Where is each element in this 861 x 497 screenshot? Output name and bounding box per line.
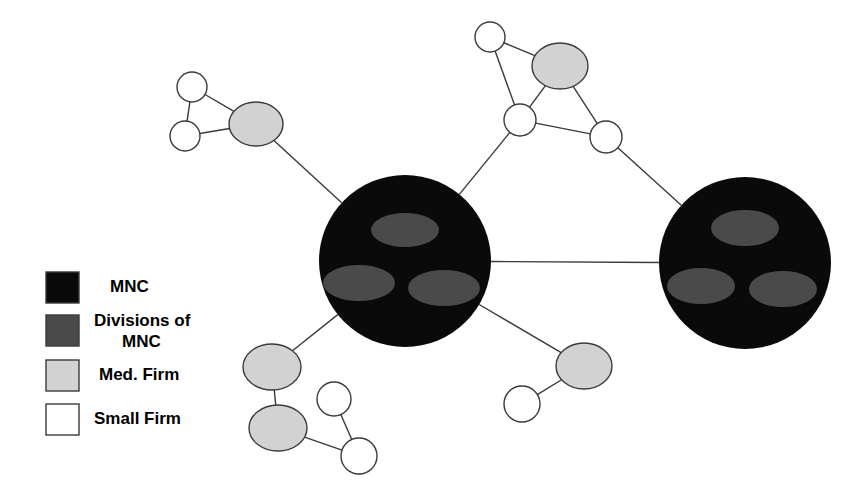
network-node-med-topmid[interactable] bbox=[532, 43, 588, 89]
network-node-mnc-right[interactable] bbox=[659, 177, 831, 349]
legend-swatch-divisions bbox=[46, 315, 79, 346]
network-node-small-topmid-mid[interactable] bbox=[504, 104, 536, 136]
network-edge bbox=[459, 132, 510, 194]
node-layer bbox=[170, 22, 831, 474]
network-node-small-upperleft-bottom[interactable] bbox=[170, 121, 200, 151]
network-edge bbox=[274, 140, 342, 202]
network-diagram: MNCDivisions ofMNCMed. FirmSmall Firm bbox=[0, 0, 861, 497]
network-node-div-right-bottomleft[interactable] bbox=[667, 268, 735, 304]
network-node-small-topmid-right[interactable] bbox=[590, 121, 622, 153]
network-node-div-right-top[interactable] bbox=[711, 210, 779, 246]
network-canvas: MNCDivisions ofMNCMed. FirmSmall Firm bbox=[0, 0, 861, 497]
network-node-div-left-top[interactable] bbox=[371, 213, 439, 247]
network-edge bbox=[292, 315, 337, 351]
network-node-div-left-bottomright[interactable] bbox=[408, 270, 480, 306]
legend-swatch-small bbox=[46, 404, 79, 435]
network-edge bbox=[305, 437, 342, 450]
network-node-med-bottomleft-lower[interactable] bbox=[249, 405, 307, 451]
network-edge bbox=[479, 305, 561, 353]
legend-label-divisions-line1: Divisions of bbox=[94, 311, 191, 330]
network-node-div-right-bottomright[interactable] bbox=[749, 271, 817, 307]
legend-swatch-mnc bbox=[46, 272, 79, 303]
network-edge bbox=[200, 128, 230, 133]
network-edge bbox=[530, 86, 546, 107]
network-node-div-left-bottomleft[interactable] bbox=[323, 265, 395, 301]
network-node-small-bottomleft-lower[interactable] bbox=[341, 438, 377, 474]
network-node-small-topmid-left[interactable] bbox=[475, 22, 505, 52]
network-edge bbox=[205, 95, 234, 112]
legend-label-divisions-line2: MNC bbox=[122, 332, 161, 351]
network-edge bbox=[504, 43, 535, 56]
network-node-med-bottomleft-upper[interactable] bbox=[243, 344, 301, 390]
network-edge bbox=[573, 86, 597, 123]
network-node-med-bottomright[interactable] bbox=[556, 343, 612, 389]
network-edge bbox=[618, 148, 681, 205]
network-edge bbox=[491, 262, 659, 263]
network-edge bbox=[536, 123, 591, 134]
network-edge bbox=[274, 390, 275, 405]
legend: MNCDivisions ofMNCMed. FirmSmall Firm bbox=[46, 272, 191, 435]
network-edge bbox=[495, 51, 514, 105]
network-node-small-bottomright[interactable] bbox=[504, 386, 540, 422]
network-node-small-bottomleft-upper[interactable] bbox=[317, 382, 351, 416]
network-edge bbox=[187, 102, 190, 121]
network-edge bbox=[341, 415, 352, 440]
legend-swatch-medium bbox=[46, 360, 79, 391]
network-edge bbox=[537, 380, 561, 395]
network-node-small-upperleft-top[interactable] bbox=[177, 72, 207, 102]
legend-label-small: Small Firm bbox=[94, 409, 181, 428]
legend-label-mnc: MNC bbox=[110, 277, 149, 296]
network-node-mnc-left[interactable] bbox=[319, 175, 491, 347]
legend-label-medium: Med. Firm bbox=[99, 365, 179, 384]
network-node-med-upperleft[interactable] bbox=[229, 102, 283, 146]
